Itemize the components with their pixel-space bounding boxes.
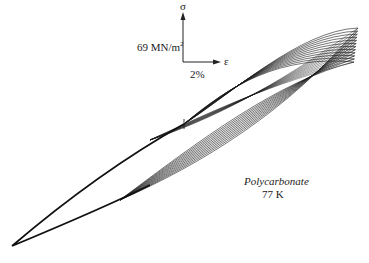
stress-scale-superscript: 2: [180, 40, 184, 48]
temperature-label: 77 K: [262, 188, 284, 200]
stress-symbol: σ: [180, 0, 186, 12]
envelope-outline: [12, 124, 184, 246]
stress-arrow-icon: [181, 12, 186, 20]
material-label: Polycarbonate: [244, 175, 309, 187]
loop-lower-branch: [120, 59, 354, 200]
loop-upper-branch: [184, 61, 354, 124]
scale-bar: [181, 12, 222, 65]
strain-symbol: ε: [224, 55, 229, 67]
hysteresis-loops-figure: [0, 0, 369, 263]
hysteresis-loops: [120, 28, 358, 200]
stress-scale-label: 69 MN/m2: [137, 40, 184, 53]
strain-scale-label: 2%: [190, 68, 205, 80]
strain-arrow-icon: [213, 60, 221, 65]
stress-scale-value: 69 MN/m: [137, 41, 180, 53]
